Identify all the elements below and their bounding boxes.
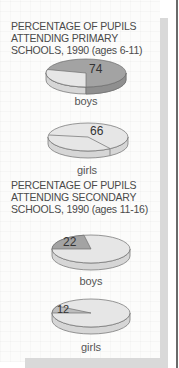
pie-secondary-boys: 22	[52, 235, 130, 270]
pie-value-label: 74	[89, 62, 103, 76]
pie-caption-secondary-boys: boys	[61, 275, 121, 287]
pie-value-label: 12	[57, 303, 69, 315]
pie-secondary-girls: 12	[52, 299, 130, 334]
pie-primary-boys: 74	[46, 59, 126, 94]
pie-primary-girls: 66	[48, 123, 128, 158]
pie-value-label: 22	[63, 235, 77, 249]
pie-caption-secondary-girls: girls	[61, 341, 121, 353]
pie-value-label: 66	[90, 124, 104, 138]
pie-charts: 74 66 22 12	[0, 0, 179, 368]
pie-caption-primary-boys: boys	[56, 95, 116, 107]
pie-caption-primary-girls: girls	[57, 164, 117, 176]
